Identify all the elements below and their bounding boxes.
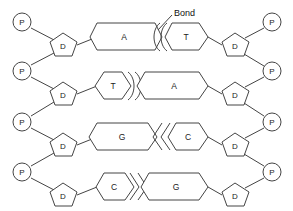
backbone-segment-left-0b <box>31 53 54 65</box>
bond-annotation-label: Bond <box>174 8 195 18</box>
base-label-left-2: G <box>119 132 126 142</box>
backbone-segment-right-2b <box>244 154 264 166</box>
phosphate-label-left-3: P <box>19 168 24 177</box>
backbone-segment-right-1a <box>245 77 264 87</box>
rung-group-3: D P C G D P <box>13 163 281 206</box>
sugar-base-link-right-1 <box>208 86 222 94</box>
backbone-segment-right-0b <box>244 54 264 66</box>
sugar-label-left-1: D <box>60 91 66 100</box>
phosphate-label-right-3: P <box>269 168 274 177</box>
phosphate-label-right-0: P <box>269 18 274 27</box>
backbone-segment-right-3a <box>245 178 264 188</box>
backbone-segment-right-0a <box>245 28 264 38</box>
phosphate-label-left-1: P <box>19 67 24 76</box>
sugar-base-link-right-3 <box>208 187 222 195</box>
backbone-segment-left-1a <box>31 77 56 90</box>
phosphate-label-right-1: P <box>269 67 274 76</box>
backbone-segment-left-3a <box>31 178 56 191</box>
base-label-left-0: A <box>121 32 127 42</box>
backbone-segment-right-1b <box>244 103 264 116</box>
base-label-right-2: C <box>185 132 191 142</box>
rung-group-2: D P G C D P <box>13 113 281 166</box>
rung-group-1: D P T A D P <box>13 62 281 116</box>
backbone-segment-left-2b <box>31 153 54 166</box>
base-label-right-0: T <box>183 32 188 42</box>
sugar-label-right-1: D <box>232 91 238 100</box>
backbone-segment-left-0a <box>31 28 56 41</box>
sugar-label-left-2: D <box>60 142 66 151</box>
backbone-segment-right-2a <box>245 128 264 138</box>
sugar-base-link-left-3 <box>77 187 97 195</box>
phosphate-label-left-2: P <box>19 118 24 127</box>
dna-structure-diagram: D P A T D P <box>0 0 293 211</box>
backbone-segment-left-1b <box>31 102 54 116</box>
sugar-base-link-right-2 <box>208 137 222 145</box>
phosphate-label-right-2: P <box>269 118 274 127</box>
backbone-segment-left-2a <box>31 128 56 141</box>
sugar-label-right-3: D <box>232 192 238 201</box>
dna-diagram-canvas: D P A T D P <box>0 0 293 211</box>
phosphate-label-left-0: P <box>19 18 24 27</box>
sugar-base-link-left-1 <box>77 86 97 94</box>
sugar-label-right-2: D <box>232 142 238 151</box>
base-label-right-1: A <box>171 81 177 91</box>
base-label-right-3: G <box>173 182 180 192</box>
sugar-base-link-right-0 <box>208 37 222 45</box>
sugar-label-left-0: D <box>60 42 66 51</box>
rung-group-0: D P A T D P <box>13 13 281 66</box>
sugar-label-left-3: D <box>60 192 66 201</box>
base-label-left-1: T <box>110 81 115 91</box>
base-label-left-3: C <box>111 182 117 192</box>
sugar-label-right-0: D <box>232 42 238 51</box>
